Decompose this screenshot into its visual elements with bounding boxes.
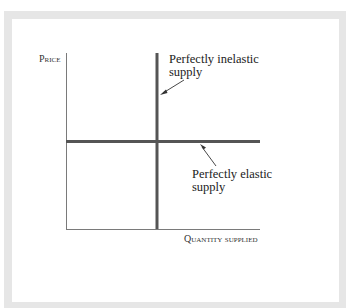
supply-elasticity-diagram <box>0 0 351 308</box>
elastic-supply-label-line2: supply <box>192 181 225 194</box>
inelastic-supply-label-line2: supply <box>169 66 202 79</box>
inelastic-arrow-icon <box>160 80 184 95</box>
x-axis-label: Quantity supplied <box>184 232 258 245</box>
y-axis-label: Price <box>39 52 61 65</box>
elastic-arrow-icon <box>200 144 216 166</box>
